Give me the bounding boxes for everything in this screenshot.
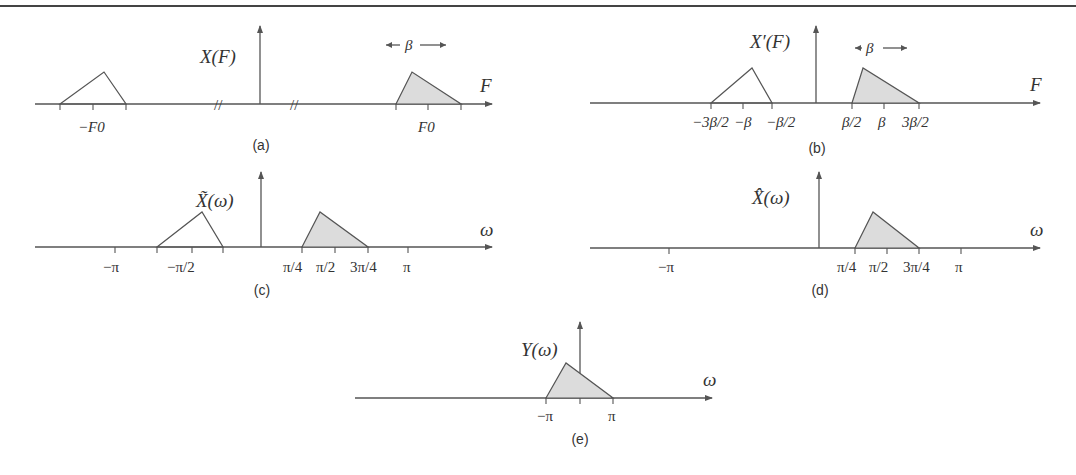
x-label: F xyxy=(479,75,492,96)
panel-e: Y(ω) ω −π π (e) xyxy=(355,322,716,447)
tick: −π xyxy=(537,408,553,424)
caption-c: (c) xyxy=(254,282,270,298)
tick: π/2 xyxy=(316,259,335,275)
caption-a: (a) xyxy=(252,137,269,153)
negative-spectrum xyxy=(157,212,223,247)
y-label: X′(F) xyxy=(749,31,790,53)
panel-a: // // X(F) F −F0 F0 β (a) xyxy=(35,26,492,153)
spectrum-figure: // // X(F) F −F0 F0 β (a) X′(F) F −3β/2 … xyxy=(0,0,1076,475)
tick: 3β/2 xyxy=(901,114,929,130)
tick: π xyxy=(955,259,963,275)
positive-spectrum xyxy=(855,212,919,248)
tick: β/2 xyxy=(841,114,862,130)
caption-e: (e) xyxy=(571,431,588,447)
tick-neg-f0: −F0 xyxy=(78,119,105,135)
bandwidth-label: β xyxy=(865,40,874,56)
x-label: F xyxy=(1029,74,1042,95)
tick: π/4 xyxy=(837,259,857,275)
positive-spectrum xyxy=(852,68,919,103)
tick: β xyxy=(877,114,886,130)
tick: 3π/4 xyxy=(350,259,377,275)
y-label: X̂(ω) xyxy=(751,187,790,209)
panel-c: X̃(ω) ω −π −π/2 π/4 π/2 3π/4 π (c) xyxy=(35,172,493,298)
caption-d: (d) xyxy=(811,282,828,298)
positive-spectrum xyxy=(302,212,368,247)
tick: π/2 xyxy=(869,259,888,275)
tick: π/4 xyxy=(283,259,303,275)
panel-b: X′(F) F −3β/2 −β −β/2 β/2 β 3β/2 β (b) xyxy=(590,26,1042,156)
tick: −π/2 xyxy=(167,259,195,275)
x-label: ω xyxy=(703,369,716,390)
bandwidth-label: β xyxy=(404,37,413,53)
tick: π xyxy=(403,259,411,275)
tick: π xyxy=(608,408,616,424)
y-label: X(F) xyxy=(199,46,236,68)
negative-spectrum xyxy=(711,68,772,103)
panel-d: X̂(ω) ω −π π/4 π/2 3π/4 π (d) xyxy=(590,172,1043,298)
tick: −π xyxy=(103,259,119,275)
tick: 3π/4 xyxy=(903,259,930,275)
y-label: X̃(ω) xyxy=(195,190,234,212)
tick: −π xyxy=(658,259,674,275)
tick: −β/2 xyxy=(766,114,796,130)
truncated-caption-text xyxy=(0,462,1076,475)
tick: −3β/2 xyxy=(692,114,729,130)
axis-break-right: // xyxy=(290,97,299,113)
positive-spectrum xyxy=(396,72,461,104)
x-label: ω xyxy=(480,219,493,240)
tick-f0: F0 xyxy=(417,119,435,135)
axis-break-left: // xyxy=(214,97,223,113)
negative-spectrum xyxy=(60,72,126,104)
x-label: ω xyxy=(1030,219,1043,240)
tick: −β xyxy=(734,114,752,130)
y-label: Y(ω) xyxy=(521,339,558,361)
caption-b: (b) xyxy=(808,140,825,156)
